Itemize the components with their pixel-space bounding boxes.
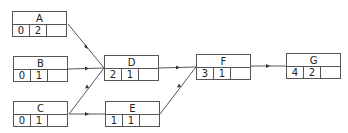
node-value: 1 <box>123 115 140 127</box>
arrowhead-icon <box>266 64 270 68</box>
node-b: B 0 1 <box>13 56 68 82</box>
node-value: 1 <box>31 70 48 82</box>
node-value: 0 <box>14 115 31 127</box>
node-value: 2 <box>304 67 321 79</box>
arrowhead-icon <box>85 112 89 116</box>
node-value: 0 <box>13 25 30 37</box>
node-label: G <box>287 54 340 67</box>
node-label: D <box>105 56 158 69</box>
node-f: F 3 1 <box>196 54 251 80</box>
node-label: F <box>197 55 250 68</box>
node-value <box>48 115 67 127</box>
node-label: A <box>13 12 66 25</box>
node-a: A 0 2 <box>12 11 67 37</box>
node-value <box>140 115 159 127</box>
node-value <box>139 69 158 81</box>
node-value: 3 <box>197 68 214 80</box>
node-value: 1 <box>214 68 231 80</box>
node-value: 2 <box>105 69 122 81</box>
node-d: D 2 1 <box>104 55 159 81</box>
node-value <box>48 70 67 82</box>
node-c: C 0 1 <box>13 101 68 127</box>
arrowhead-icon <box>85 67 89 71</box>
node-g: G 4 2 <box>286 53 341 79</box>
node-value: 0 <box>14 70 31 82</box>
node-value <box>231 68 250 80</box>
node-value: 2 <box>30 25 47 37</box>
arrowhead-icon <box>176 66 180 70</box>
node-value: 4 <box>287 67 304 79</box>
node-value: 1 <box>31 115 48 127</box>
node-e: E 1 1 <box>105 101 160 127</box>
node-label: B <box>14 57 67 70</box>
edge-c-d <box>69 68 104 114</box>
node-value <box>321 67 340 79</box>
node-value: 1 <box>122 69 139 81</box>
edge-e-f <box>160 67 196 114</box>
node-value <box>47 25 66 37</box>
node-label: C <box>14 102 67 115</box>
node-label: E <box>106 102 159 115</box>
arrowhead-icon <box>177 84 181 88</box>
node-value: 1 <box>106 115 123 127</box>
arrowhead-icon <box>85 85 89 89</box>
